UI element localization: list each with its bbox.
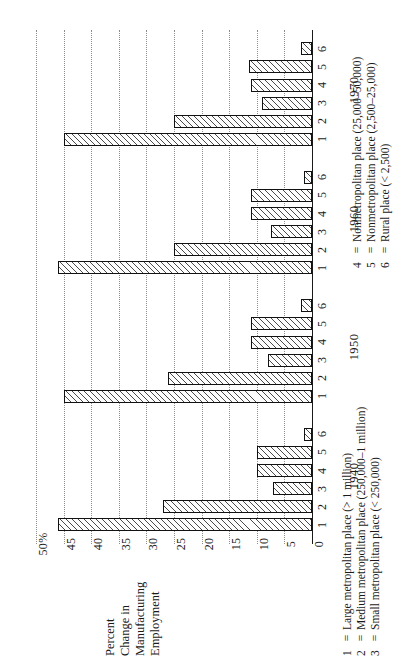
legend-key: 3 (370, 646, 382, 656)
category-tick-label: 6 (316, 41, 329, 57)
category-tick-label: 1 (316, 517, 329, 533)
bars-layer (36, 30, 312, 544)
bar (273, 482, 312, 495)
category-tick-label: 4 (316, 77, 329, 93)
category-tick-label: 6 (316, 169, 329, 185)
legend-label: Nonmetropolitan place (25,000–50,000) (351, 57, 363, 242)
bar (174, 115, 312, 128)
bar (251, 79, 312, 92)
value-tick-label: 30 (146, 538, 161, 551)
category-tick-label: 5 (316, 316, 329, 332)
bar (257, 446, 312, 459)
legend-item: 5=Nonmetropolitan place (2,500–25,000) (366, 63, 378, 269)
category-tick-label: 3 (316, 95, 329, 111)
legend-equals: = (356, 630, 368, 646)
bar (268, 354, 312, 367)
bar (64, 390, 312, 403)
value-tick-label: 10 (257, 538, 272, 551)
legend-label: Rural place (< 2,500) (379, 144, 391, 242)
chart-figure: 50%454035302520151050 123456194012345619… (0, 0, 416, 657)
value-tick-label: 40 (91, 538, 106, 551)
bar (262, 97, 312, 110)
category-tick-label: 4 (316, 463, 329, 479)
axis-title-line: Manufacturing (134, 582, 147, 656)
axis-title: PercentChange inManufacturingEmployment (104, 560, 204, 656)
legend-item: 2=Medium metropolitan place (250,000–1 m… (356, 407, 368, 656)
category-tick-label: 6 (316, 426, 329, 442)
legend-key: 5 (366, 258, 378, 268)
bar (58, 518, 312, 531)
legend-label: Medium metropolitan place (250,000–1 mil… (355, 407, 367, 630)
bar (168, 372, 312, 385)
bar (304, 428, 312, 441)
bar (174, 243, 312, 256)
category-tick-label: 3 (316, 224, 329, 240)
legend-label: Nonmetropolitan place (2,500–25,000) (365, 63, 377, 243)
bar (64, 133, 312, 146)
value-tick-label: 20 (202, 538, 217, 551)
category-tick-label: 2 (316, 370, 329, 386)
value-tick-label: 15 (229, 538, 244, 551)
bar (251, 317, 312, 330)
legend-key: 1 (342, 646, 354, 656)
legend-item: 4=Nonmetropolitan place (25,000–50,000) (352, 57, 364, 268)
category-tick-label: 5 (316, 444, 329, 460)
bar (163, 500, 312, 513)
bar (304, 171, 312, 184)
category-tick-label: 5 (316, 59, 329, 75)
bar (251, 189, 312, 202)
legend-label: Small metropolitan place (< 250,000) (369, 457, 381, 630)
legend-lower: 1=Large metropolitan place (> 1 million)… (342, 440, 416, 656)
legend-upper: 4=Nonmetropolitan place (25,000–50,000)5… (352, 8, 416, 268)
category-tick-label: 1 (316, 131, 329, 147)
value-tick-label: 50% (36, 533, 51, 556)
legend-item: 1=Large metropolitan place (> 1 million) (342, 453, 354, 656)
axis-title-line: Employment (149, 591, 162, 656)
legend-equals: = (352, 242, 364, 258)
category-tick-label: 2 (316, 499, 329, 515)
bar (251, 207, 312, 220)
legend-key: 4 (352, 258, 364, 268)
legend-key: 2 (356, 646, 368, 656)
bar (58, 261, 312, 274)
legend-label: Large metropolitan place (> 1 million) (341, 453, 353, 630)
category-tick-label: 5 (316, 187, 329, 203)
category-tick-label: 4 (316, 206, 329, 222)
category-tick-label: 4 (316, 334, 329, 350)
legend-equals: = (366, 242, 378, 258)
category-tick-label: 1 (316, 388, 329, 404)
category-tick-label: 6 (316, 298, 329, 314)
legend-item: 3=Small metropolitan place (< 250,000) (370, 457, 382, 656)
value-tick-label: 5 (284, 541, 299, 547)
value-tick-label: 45 (64, 538, 79, 551)
bar (249, 60, 312, 73)
group-label: 1950 (347, 325, 361, 369)
axis-title-line: Percent (104, 619, 117, 656)
bar (301, 42, 312, 55)
legend-equals: = (380, 242, 392, 258)
legend-key: 6 (380, 258, 392, 268)
category-tick-label: 3 (316, 481, 329, 497)
legend-item: 6=Rural place (< 2,500) (380, 144, 392, 268)
category-tick-label: 2 (316, 113, 329, 129)
bar (301, 299, 312, 312)
value-tick-label: 35 (119, 538, 134, 551)
plot-area (36, 30, 312, 544)
legend-equals: = (342, 630, 354, 646)
category-tick-label: 1 (316, 260, 329, 276)
legend-equals: = (370, 630, 382, 646)
value-tick-label: 25 (174, 538, 189, 551)
bar (257, 464, 312, 477)
category-tick-label: 3 (316, 352, 329, 368)
bar (271, 225, 312, 238)
bar (251, 336, 312, 349)
axis-title-line: Change in (119, 605, 132, 656)
category-tick-label: 2 (316, 242, 329, 258)
